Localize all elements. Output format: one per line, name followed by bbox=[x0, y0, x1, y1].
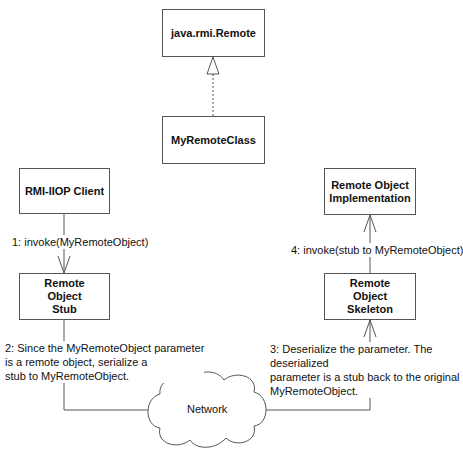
implementation-box: Remote Object Implementation bbox=[324, 168, 416, 215]
remote-interface-label: java.rmi.Remote bbox=[171, 27, 256, 40]
stub-box: Remote Object Stub bbox=[19, 273, 110, 320]
skeleton-box: Remote Object Skeleton bbox=[324, 273, 416, 320]
remote-class-box: MyRemoteClass bbox=[162, 116, 265, 164]
step3-label: 3: Deserialize the parameter. The deseri… bbox=[270, 342, 461, 398]
remote-interface-box: java.rmi.Remote bbox=[162, 9, 265, 57]
network-label: Network bbox=[187, 403, 227, 415]
step4-label: 4: invoke(stub to MyRemoteObject) bbox=[291, 243, 463, 257]
step1-label: 1: invoke(MyRemoteObject) bbox=[12, 235, 148, 249]
generalization-arrowhead-icon bbox=[207, 57, 219, 74]
skeleton-label: Remote Object Skeleton bbox=[339, 277, 401, 316]
stub-label: Remote Object Stub bbox=[34, 277, 95, 316]
step2-label: 2: Since the MyRemoteObject parameter is… bbox=[5, 341, 204, 383]
implementation-label: Remote Object Implementation bbox=[325, 179, 415, 205]
client-box: RMI-IIOP Client bbox=[19, 168, 110, 214]
client-label: RMI-IIOP Client bbox=[25, 185, 104, 198]
remote-class-label: MyRemoteClass bbox=[171, 134, 256, 147]
